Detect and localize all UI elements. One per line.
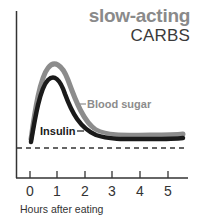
blood-sugar-label: Blood sugar	[87, 98, 152, 110]
insulin-label: Insulin	[40, 125, 76, 137]
tick-label-5: 5	[164, 183, 172, 199]
x-ticks	[30, 171, 168, 178]
tick-label-2: 2	[81, 183, 89, 199]
tick-label-1: 1	[53, 183, 61, 199]
tick-label-4: 4	[136, 183, 144, 199]
x-axis-label: Hours after eating	[20, 203, 103, 215]
chart-plot: 0 1 2 3 4 5 Blood sugar Insulin	[0, 0, 198, 222]
tick-label-0: 0	[26, 183, 34, 199]
x-tick-labels: 0 1 2 3 4 5	[26, 183, 172, 199]
tick-label-3: 3	[108, 183, 116, 199]
